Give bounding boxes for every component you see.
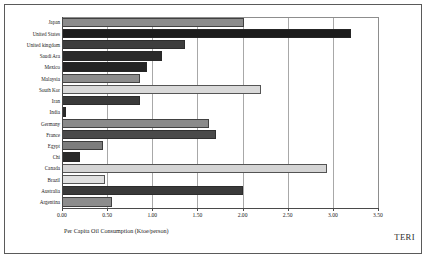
bar-mexico xyxy=(62,62,147,71)
category-label-iran: Iran xyxy=(52,98,60,104)
bar-brazil xyxy=(62,175,105,184)
plot-area xyxy=(62,17,378,208)
tick-label-2.50: 2.50 xyxy=(276,211,300,219)
bar-row xyxy=(62,141,378,152)
axis-top xyxy=(62,17,379,18)
tick-label-3.50: 3.50 xyxy=(366,211,390,219)
category-label-mexico: Mexico xyxy=(44,64,60,70)
category-axis-labels: JapanUnited StatesUnited kingdomSaudi Ar… xyxy=(8,17,60,208)
bar-egypt xyxy=(62,141,103,150)
bar-canada xyxy=(62,164,327,173)
bar-row xyxy=(62,174,378,185)
bar-australia xyxy=(62,186,243,195)
category-label-australia: Australia xyxy=(41,188,60,194)
bar-germany xyxy=(62,119,209,128)
bar-argentina xyxy=(62,197,112,206)
bar-row xyxy=(62,62,378,73)
tick-label-3.00: 3.00 xyxy=(321,211,345,219)
category-label-south-kor: South Kor xyxy=(39,87,60,93)
axis-right xyxy=(378,17,379,209)
bar-chi xyxy=(62,152,80,161)
category-label-india: India xyxy=(50,109,60,115)
chart-figure: JapanUnited StatesUnited kingdomSaudi Ar… xyxy=(0,0,427,259)
tick-label-1.50: 1.50 xyxy=(185,211,209,219)
category-label-japan: Japan xyxy=(48,19,60,25)
tick-label-0.00: 0.00 xyxy=(50,211,74,219)
tick-label-2.00: 2.00 xyxy=(231,211,255,219)
bar-row xyxy=(62,163,378,174)
bar-row xyxy=(62,84,378,95)
axis-left-category xyxy=(62,17,63,209)
bar-japan xyxy=(62,18,244,27)
category-label-germany: Germany xyxy=(41,121,60,127)
bar-row xyxy=(62,197,378,208)
category-label-canada: Canada xyxy=(45,165,60,171)
bar-row xyxy=(62,118,378,129)
bar-row xyxy=(62,96,378,107)
category-label-brazil: Brazil xyxy=(48,177,60,183)
bar-row xyxy=(62,129,378,140)
axis-bottom-value xyxy=(62,208,379,209)
bar-united-states xyxy=(62,29,351,38)
bar-france xyxy=(62,130,216,139)
bar-row xyxy=(62,73,378,84)
bar-united-kingdom xyxy=(62,40,185,49)
brand-label: TERI xyxy=(394,232,415,243)
bar-row xyxy=(62,28,378,39)
bar-row xyxy=(62,39,378,50)
bar-row xyxy=(62,107,378,118)
bar-row xyxy=(62,17,378,28)
tick-label-0.50: 0.50 xyxy=(95,211,119,219)
category-label-united-kingdom: United kingdom xyxy=(27,42,60,48)
bar-row xyxy=(62,152,378,163)
category-label-egypt: Egypt xyxy=(48,143,60,149)
category-label-saudi-ara: Saudi Ara xyxy=(40,53,60,59)
x-axis-tick-labels: 0.000.501.001.502.002.503.003.50 xyxy=(0,211,427,223)
category-label-france: France xyxy=(46,132,60,138)
bar-row xyxy=(62,186,378,197)
bar-saudi-ara xyxy=(62,51,162,60)
bar-iran xyxy=(62,96,140,105)
category-label-chi: Chi xyxy=(53,154,60,160)
tick-label-1.00: 1.00 xyxy=(140,211,164,219)
category-label-malaysia: Malaysia xyxy=(41,76,60,82)
bar-south-kor xyxy=(62,85,261,94)
x-axis-title: Per Capita Oil Consumption (Ktoe/person) xyxy=(64,227,169,235)
bar-row xyxy=(62,51,378,62)
category-label-argentina: Argentina xyxy=(40,199,60,205)
bar-malaysia xyxy=(62,74,140,83)
category-label-united-states: United States xyxy=(33,31,60,37)
